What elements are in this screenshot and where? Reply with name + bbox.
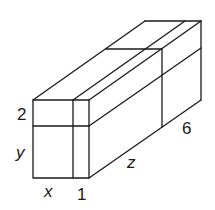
label-x: x <box>43 182 53 201</box>
top-right-edge <box>89 21 201 100</box>
front-face <box>33 100 89 178</box>
label-z: z <box>126 153 136 172</box>
side-divider-edge <box>89 48 201 126</box>
bottom-right-edge <box>89 100 201 178</box>
label-1: 1 <box>77 185 86 204</box>
label-y: y <box>15 143 26 162</box>
prism-diagram: 2 y x 1 z 6 <box>0 0 215 210</box>
label-6: 6 <box>182 119 191 138</box>
label-2: 2 <box>17 105 26 124</box>
